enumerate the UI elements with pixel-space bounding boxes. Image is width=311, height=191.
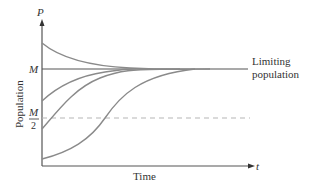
curve-above-m: [42, 43, 210, 69]
limiting-label-line1: Limiting: [252, 55, 291, 67]
m-half-numerator: M: [28, 106, 39, 118]
logistic-growth-diagram: P t M M 2 Population Time Limiting popul…: [0, 0, 311, 191]
y-axis-label: Population: [13, 80, 25, 128]
y-axis-symbol: P: [36, 6, 44, 18]
y-axis-arrow-icon: [40, 19, 45, 26]
x-axis-label: Time: [133, 170, 156, 182]
x-axis-arrow-icon: [248, 164, 255, 169]
limiting-label-line2: population: [252, 68, 300, 80]
m-half-denominator: 2: [31, 120, 36, 131]
curve-sigmoid: [42, 69, 195, 159]
curve-below-half: [42, 69, 180, 129]
m-tick-label: M: [28, 63, 39, 75]
curve-between-half-and-m: [42, 69, 150, 101]
x-axis-symbol: t: [256, 160, 260, 172]
